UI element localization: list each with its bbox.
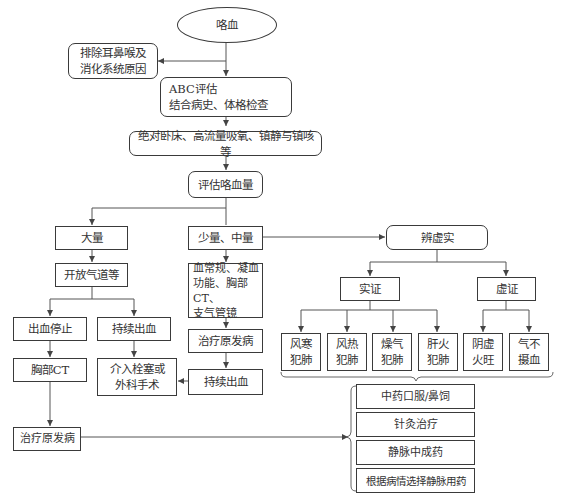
exclude-ent-gi-node: 排除耳鼻喉及 消化系统原因 [68, 43, 158, 79]
bed-rest-oxygen-node: 绝对卧床、高流量吸氧、镇静与镇咳等 [129, 131, 322, 156]
small-medium-volume-node: 少量、中量 [188, 226, 263, 250]
intervention-surgery-node: 介入栓塞或 外科手术 [97, 358, 177, 396]
abc-assessment-node: ABC评估 结合病史、体格检查 [160, 77, 292, 117]
qi-deficiency-node: 气不 摄血 [509, 333, 549, 371]
treat-primary-disease-node-b: 治疗原发病 [188, 329, 263, 353]
treatment-tcm-oral: 中药口服/鼻饲 [356, 384, 475, 409]
assess-volume-node: 评估咯血量 [188, 171, 263, 198]
liver-fire-node: 肝火 犯肺 [418, 333, 458, 371]
open-airway-node: 开放气道等 [55, 263, 128, 287]
deficiency-syndrome-node: 虚证 [477, 277, 536, 301]
treat-primary-disease-node-a: 治疗原发病 [13, 427, 81, 451]
wind-heat-node: 风热 犯肺 [327, 333, 367, 371]
treatment-iv-tcm: 静脉中成药 [356, 440, 475, 465]
continued-bleeding-node-a: 持续出血 [97, 317, 171, 341]
large-volume-node: 大量 [55, 226, 128, 250]
wind-cold-node: 风寒 犯肺 [281, 333, 321, 371]
tests-node: 血常规、凝血 功能、胸部CT、 支气管镜 [188, 263, 263, 318]
differentiate-node: 辨虚实 [386, 225, 488, 250]
figure-caption [160, 484, 410, 494]
dryness-node: 燥气 犯肺 [372, 333, 412, 371]
chest-ct-node: 胸部CT [13, 358, 87, 382]
yin-deficiency-node: 阴虚 火旺 [463, 333, 503, 371]
continued-bleeding-node-b: 持续出血 [188, 369, 263, 395]
treatment-acupuncture: 针灸治疗 [356, 412, 475, 437]
excess-syndrome-node: 实证 [340, 277, 400, 301]
start-node-hemoptysis: 咯血 [177, 7, 277, 43]
bleeding-stopped-node: 出血停止 [13, 317, 87, 341]
